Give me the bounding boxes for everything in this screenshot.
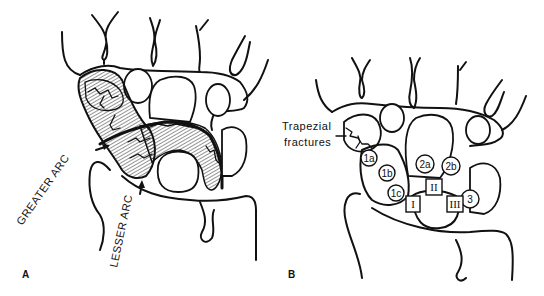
svg-text:3: 3 <box>467 194 473 205</box>
lunate-window-a <box>158 152 199 192</box>
svg-text:I: I <box>411 198 415 210</box>
trapezial-callout-line1: Trapezial <box>282 120 331 132</box>
marker-I: I <box>406 196 420 212</box>
marker-2b: 2b <box>442 157 460 175</box>
svg-text:2a: 2a <box>419 159 431 170</box>
marker-III: III <box>447 196 463 212</box>
marker-2a: 2a <box>416 155 434 173</box>
svg-text:1c: 1c <box>391 188 402 199</box>
radius-b <box>345 193 362 278</box>
trapezial-callout-line2: fractures <box>284 136 331 148</box>
lesser-arc-label: LESSER ARC <box>107 193 134 268</box>
svg-text:1b: 1b <box>381 168 393 179</box>
radius-a <box>89 162 110 250</box>
svg-text:III: III <box>450 198 461 210</box>
marker-1a: 1a <box>361 150 377 166</box>
wrist-diagram: GREATER ARC LESSER ARC A <box>0 0 544 296</box>
svg-text:2b: 2b <box>445 161 457 172</box>
triquetrum-a <box>222 127 246 176</box>
marker-1c: 1c <box>388 185 404 201</box>
panel-b: Trapezial fractures 1a 1b 1c 2a 2b 3 <box>282 58 526 280</box>
svg-text:1a: 1a <box>363 153 375 164</box>
trapezoid-b <box>380 104 404 132</box>
panel-a: GREATER ARC LESSER ARC A <box>14 12 268 280</box>
marker-1b: 1b <box>379 165 395 181</box>
capitate-a <box>149 77 195 122</box>
ulna-a <box>200 202 214 242</box>
ulna-b <box>456 240 466 280</box>
marker-II: II <box>426 179 442 195</box>
panel-label-a: A <box>22 269 29 280</box>
marker-3: 3 <box>461 190 479 208</box>
greater-arc-label: GREATER ARC <box>14 152 72 227</box>
panel-label-b: B <box>288 269 295 280</box>
svg-text:II: II <box>430 181 438 193</box>
hamate-a <box>206 84 230 116</box>
hamate-b <box>466 116 490 144</box>
